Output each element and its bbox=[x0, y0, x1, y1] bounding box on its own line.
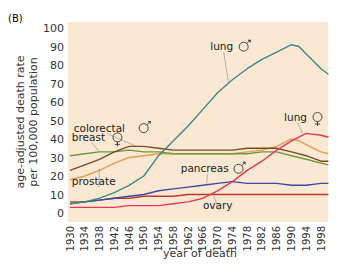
x-tick-label: 1934 bbox=[79, 226, 90, 251]
svg-text:breast: breast bbox=[72, 131, 105, 143]
y-tick-label: 90 bbox=[50, 41, 64, 54]
x-tick-label: 1946 bbox=[124, 226, 135, 251]
y-axis-title: age-adjusted death rate per 100,000 popu… bbox=[14, 55, 40, 188]
svg-text:lung: lung bbox=[210, 40, 233, 52]
annotation-ovary: ovary bbox=[203, 196, 233, 211]
y-tick-label: 50 bbox=[50, 115, 64, 128]
y-tick-label: 40 bbox=[50, 133, 64, 146]
x-tick-label: 1986 bbox=[271, 226, 282, 251]
cancer-death-rate-chart: (B) 0102030405060708090100 1930193419381… bbox=[0, 0, 341, 277]
y-tick-label: 10 bbox=[50, 189, 64, 202]
y-axis-ticks: 0102030405060708090100 bbox=[43, 22, 64, 220]
panel-label: (B) bbox=[8, 13, 23, 24]
y-tick-label: 60 bbox=[50, 96, 64, 109]
y-tick-label: 80 bbox=[50, 59, 64, 72]
x-tick-label: 1942 bbox=[109, 226, 120, 251]
svg-text:pancreas: pancreas bbox=[181, 162, 229, 174]
svg-text:per 100,000 population: per 100,000 population bbox=[27, 57, 40, 186]
x-tick-label: 1990 bbox=[286, 226, 297, 251]
y-tick-label: 70 bbox=[50, 78, 64, 91]
y-tick-label: 30 bbox=[50, 152, 64, 165]
x-tick-label: 1994 bbox=[301, 226, 312, 251]
x-tick-label: 1982 bbox=[256, 226, 267, 251]
x-tick-label: 1930 bbox=[65, 226, 76, 251]
x-tick-label: 1998 bbox=[316, 226, 327, 251]
y-tick-label: 20 bbox=[50, 170, 64, 183]
x-tick-label: 1950 bbox=[138, 226, 149, 251]
svg-text:prostate: prostate bbox=[72, 175, 116, 187]
x-axis-title: year of death bbox=[163, 247, 237, 260]
y-tick-label: 100 bbox=[43, 22, 64, 35]
svg-text:lung: lung bbox=[284, 111, 307, 123]
y-tick-label: 0 bbox=[57, 207, 64, 220]
svg-text:age-adjusted death rate: age-adjusted death rate bbox=[14, 55, 27, 188]
x-tick-label: 1978 bbox=[242, 226, 253, 251]
x-tick-label: 1938 bbox=[94, 226, 105, 251]
